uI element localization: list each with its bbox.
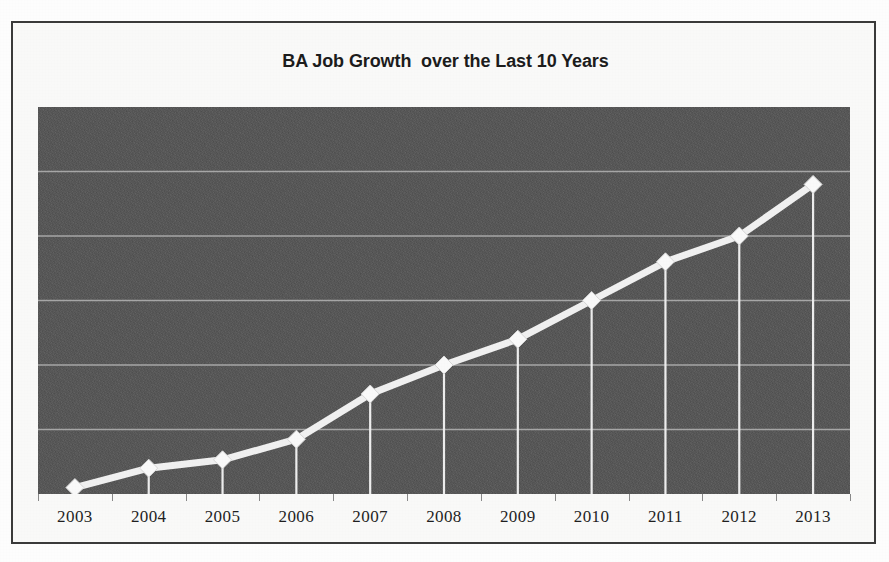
data-point-marker: [140, 459, 158, 477]
chart-title: BA Job Growth over the Last 10 Years: [13, 51, 878, 72]
x-tick-label: 2011: [629, 507, 703, 537]
x-tick-label: 2007: [333, 507, 407, 537]
drop-lines-group: [75, 184, 813, 494]
x-tick-label: 2004: [112, 507, 186, 537]
x-tick-mark: [407, 494, 408, 501]
line-chart-svg: [38, 107, 850, 494]
x-tick-label: 2013: [776, 507, 850, 537]
x-tick-label: 2006: [259, 507, 333, 537]
scanned-page: BA Job Growth over the Last 10 Years 200…: [0, 0, 889, 562]
x-tick-label: 2012: [702, 507, 776, 537]
chart-frame: BA Job Growth over the Last 10 Years 200…: [11, 21, 876, 544]
plot-area: [38, 107, 850, 494]
x-tick-mark: [481, 494, 482, 501]
x-tick-label: 2009: [481, 507, 555, 537]
data-point-marker: [435, 356, 453, 374]
x-tick-mark: [333, 494, 334, 501]
x-tick-mark: [112, 494, 113, 501]
x-tick-label: 2005: [186, 507, 260, 537]
x-tick-label: 2008: [407, 507, 481, 537]
x-tick-mark: [555, 494, 556, 501]
data-point-marker: [66, 479, 84, 494]
x-tick-mark: [702, 494, 703, 501]
x-tick-mark: [776, 494, 777, 501]
x-tick-mark: [629, 494, 630, 501]
x-tick-mark: [259, 494, 260, 501]
x-tick-mark: [186, 494, 187, 501]
x-tick-mark: [38, 494, 39, 501]
x-axis-labels: 2003200420052006200720082009201020112012…: [38, 507, 850, 537]
data-point-marker: [214, 451, 232, 469]
x-tick-mark: [850, 494, 851, 501]
x-tick-label: 2003: [38, 507, 112, 537]
x-tick-label: 2010: [555, 507, 629, 537]
x-axis-tick-marks: [38, 494, 850, 502]
